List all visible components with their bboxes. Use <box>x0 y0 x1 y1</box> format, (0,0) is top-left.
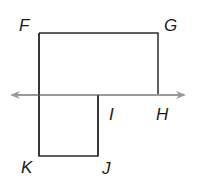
geometry-diagram: F G H I J K <box>0 0 197 179</box>
label-g: G <box>164 16 177 35</box>
label-h: H <box>156 105 169 124</box>
label-f: F <box>19 16 31 35</box>
label-j: J <box>101 159 111 178</box>
label-k: K <box>21 158 33 177</box>
label-i: I <box>109 105 114 124</box>
